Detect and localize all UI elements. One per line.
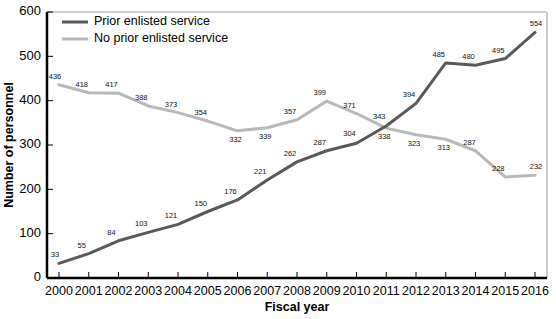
x-tick-label: 2006 [224,284,252,298]
data-point-label: 304 [343,129,356,138]
data-point-label: 554 [530,19,543,28]
y-tick-label: 200 [19,181,41,196]
data-point-label: 287 [463,138,476,147]
x-tick-label: 2002 [105,284,133,298]
x-tick-label: 2008 [283,284,311,298]
data-point-label: 313 [437,143,450,152]
data-point-label: 495 [492,46,505,55]
x-tick-label: 2000 [45,284,73,298]
data-point-label: 399 [313,88,326,97]
data-series-group [59,32,535,263]
data-point-label: 332 [229,135,242,144]
y-tick-label: 0 [34,269,41,284]
y-tick-label: 600 [19,3,41,18]
data-point-label: 232 [530,162,543,171]
data-point-label: 262 [284,149,297,158]
legend-label-1: Prior enlisted service [94,14,210,28]
x-tick-label: 2013 [432,284,460,298]
data-point-label: 150 [194,199,207,208]
series-line-1 [59,32,535,263]
chart-legend: Prior enlisted serviceNo prior enlisted … [62,14,228,45]
data-point-label: 176 [224,187,237,196]
data-point-label: 343 [373,112,386,121]
chart-canvas: 0100200300400500600 Number of personnel … [0,0,556,319]
data-point-label: 103 [135,219,148,228]
data-point-label: 436 [49,72,62,81]
x-axis-title: Fiscal year [265,300,330,314]
x-axis-tick-labels: 2000200120022003200420052006200720082009… [45,284,549,298]
data-point-label: 417 [105,80,118,89]
data-point-label: 33 [51,250,59,259]
data-point-label: 394 [403,90,416,99]
data-point-label: 338 [378,132,391,141]
data-point-label: 485 [432,50,445,59]
x-axis: 2000200120022003200420052006200720082009… [45,272,549,314]
data-point-label: 388 [135,93,148,102]
x-tick-label: 2010 [343,284,371,298]
data-point-label: 121 [165,211,178,220]
data-point-label: 84 [107,228,115,237]
y-tick-label: 400 [19,92,41,107]
x-tick-label: 2001 [75,284,103,298]
data-point-label: 480 [462,52,475,61]
data-point-label: 371 [343,101,356,110]
x-tick-label: 2012 [402,284,430,298]
line-chart: 0100200300400500600 Number of personnel … [0,0,556,319]
y-axis-tick-labels: 0100200300400500600 [19,3,41,284]
y-tick-label: 100 [19,225,41,240]
y-axis: 0100200300400500600 Number of personnel [2,3,53,284]
x-tick-label: 2005 [194,284,222,298]
x-tick-label: 2011 [373,284,400,298]
y-tick-label: 300 [19,136,41,151]
y-axis-title: Number of personnel [2,82,16,208]
data-point-label: 221 [254,167,267,176]
data-point-label: 323 [408,139,421,148]
x-tick-label: 2003 [134,284,162,298]
legend-label-2: No prior enlisted service [94,31,228,45]
data-point-label: 228 [492,164,505,173]
data-point-labels: 3355841031211501762212622873043433944854… [49,19,543,259]
data-point-label: 55 [78,241,86,250]
x-tick-label: 2016 [521,284,549,298]
x-tick-label: 2007 [253,284,281,298]
x-tick-label: 2004 [164,284,192,298]
data-point-label: 373 [165,100,178,109]
data-point-label: 339 [259,132,272,141]
x-tick-label: 2009 [313,284,341,298]
data-point-label: 418 [75,80,88,89]
data-point-label: 287 [313,138,326,147]
y-tick-label: 500 [19,48,41,63]
x-tick-label: 2014 [462,284,490,298]
x-tick-label: 2015 [491,284,519,298]
data-point-label: 354 [194,108,207,117]
data-point-label: 357 [284,107,297,116]
